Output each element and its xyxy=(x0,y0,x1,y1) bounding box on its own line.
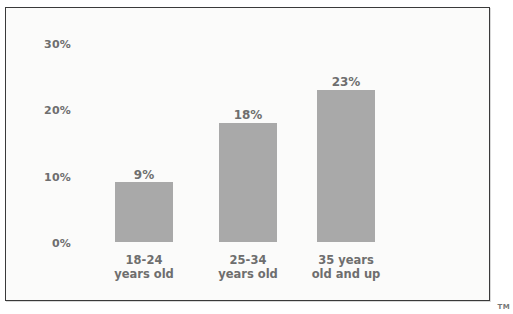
bar-value-18-24: 9% xyxy=(115,169,173,182)
y-tick-label-0: 0% xyxy=(25,238,71,249)
bar-25-34 xyxy=(219,123,277,242)
bar-category-25-34-line1: 25-34 xyxy=(204,253,292,268)
y-tick-label-30: 30% xyxy=(25,39,71,50)
bar-category-25-34-line2: years old xyxy=(204,267,292,282)
bar-category-18-24-line1: 18-24 xyxy=(100,253,188,268)
chart-screenshot: 30% 20% 10% 0% 9% 18-24 years old 18% 25… xyxy=(0,0,513,314)
bar-category-18-24-line2: years old xyxy=(100,267,188,282)
plot-area: 30% 20% 10% 0% 9% 18-24 years old 18% 25… xyxy=(6,8,489,300)
y-tick-label-10: 10% xyxy=(25,172,71,183)
bar-35-up xyxy=(317,90,375,242)
y-tick-label-20: 20% xyxy=(25,105,71,116)
bar-value-25-34: 18% xyxy=(219,109,277,122)
trademark-mark: TM xyxy=(497,303,510,311)
chart-panel: 30% 20% 10% 0% 9% 18-24 years old 18% 25… xyxy=(5,7,490,301)
bar-category-35-up-line2: old and up xyxy=(299,267,393,282)
bar-category-35-up-line1: 35 years xyxy=(299,253,393,268)
bar-value-35-up: 23% xyxy=(317,76,375,89)
bar-18-24 xyxy=(115,182,173,242)
